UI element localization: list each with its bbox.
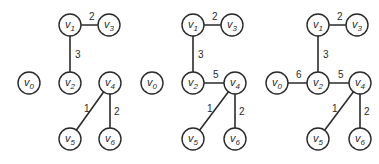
vertex-v1: v1 — [307, 14, 329, 36]
graph-panel-1: 2312v0v1v2v3v4v5v6 — [18, 11, 121, 150]
edge-weight-label: 2 — [337, 11, 343, 22]
vertex-v3: v3 — [221, 14, 243, 36]
vertex-v2: v2 — [182, 72, 204, 94]
vertex-v4: v4 — [349, 72, 371, 94]
edge-weight-label: 1 — [207, 103, 213, 114]
vertex-v1: v1 — [59, 14, 81, 36]
edge-weight-label: 3 — [323, 49, 329, 60]
vertex-v3: v3 — [346, 14, 368, 36]
edge-weight-label: 3 — [198, 49, 204, 60]
vertex-v0: v0 — [18, 72, 40, 94]
edge-weight-label: 2 — [212, 11, 218, 22]
graph-diagram: 2312v0v1v2v3v4v5v623512v0v1v2v3v4v5v6236… — [0, 0, 379, 164]
vertex-v4: v4 — [99, 72, 121, 94]
vertex-v3: v3 — [98, 14, 120, 36]
vertex-v6: v6 — [224, 128, 246, 150]
edge-weight-label: 2 — [364, 106, 370, 117]
edge-weight-label: 1 — [332, 103, 338, 114]
edge-weight-label: 2 — [239, 106, 245, 117]
vertex-v2: v2 — [307, 72, 329, 94]
graph-panel-2: 23512v0v1v2v3v4v5v6 — [141, 11, 246, 150]
vertex-v0: v0 — [266, 72, 288, 94]
vertex-v5: v5 — [59, 128, 81, 150]
vertex-v0: v0 — [141, 72, 163, 94]
vertex-v2: v2 — [59, 72, 81, 94]
edge-weight-label: 2 — [114, 106, 120, 117]
edge-weight-label: 5 — [213, 69, 219, 80]
edge-weight-label: 6 — [296, 69, 302, 80]
vertex-v1: v1 — [182, 14, 204, 36]
edge-weight-label: 5 — [338, 69, 344, 80]
vertex-v4: v4 — [224, 72, 246, 94]
vertex-v5: v5 — [182, 128, 204, 150]
graph-panel-3: 236512v0v1v2v3v4v5v6 — [266, 11, 371, 150]
vertex-v6: v6 — [349, 128, 371, 150]
vertex-v5: v5 — [307, 128, 329, 150]
edge-weight-label: 2 — [89, 11, 95, 22]
edge-weight-label: 3 — [75, 49, 81, 60]
edge-weight-label: 1 — [84, 103, 90, 114]
vertex-v6: v6 — [99, 128, 121, 150]
